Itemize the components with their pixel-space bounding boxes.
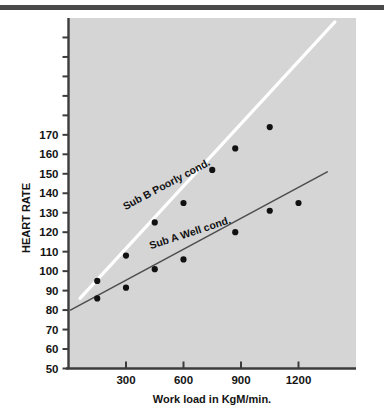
data-point-marker — [94, 295, 100, 301]
y-tick-label: 150 — [39, 168, 58, 180]
y-tick-label: 140 — [39, 187, 58, 199]
data-point-marker — [232, 229, 238, 235]
y-axis-title: HEART RATE — [20, 183, 32, 253]
y-tick-label: 170 — [39, 129, 58, 141]
x-tick-label: 600 — [174, 374, 193, 386]
data-point-marker — [123, 285, 129, 291]
y-tick-label: 80 — [46, 304, 59, 316]
y-tick-label: 110 — [40, 246, 59, 258]
y-tick-label: 50 — [46, 363, 59, 375]
data-point-marker — [152, 266, 158, 272]
heart-rate-workload-chart: 5060708090100110120130140150160170 30060… — [0, 0, 384, 414]
y-tick-label: 100 — [39, 265, 58, 277]
x-tick-label: 1200 — [286, 374, 312, 386]
data-point-marker — [267, 208, 273, 214]
x-tick-label: 300 — [116, 374, 135, 386]
data-point-marker — [295, 200, 301, 206]
data-point-marker — [152, 219, 158, 225]
chart-figure: 5060708090100110120130140150160170 30060… — [0, 0, 384, 414]
data-point-marker — [209, 167, 215, 173]
data-point-marker — [94, 278, 100, 284]
y-tick-label: 90 — [46, 285, 59, 297]
y-axis-tick-labels: 5060708090100110120130140150160170 — [39, 129, 58, 375]
plot-background — [68, 18, 356, 368]
data-point-marker — [232, 145, 238, 151]
data-point-marker — [267, 124, 273, 130]
plot-wrapper: 5060708090100110120130140150160170 30060… — [0, 0, 384, 414]
y-tick-label: 130 — [39, 207, 58, 219]
x-axis-tick-labels: 3006009001200 — [116, 374, 311, 386]
x-tick-label: 900 — [231, 374, 250, 386]
data-point-marker — [180, 200, 186, 206]
data-point-marker — [180, 256, 186, 262]
y-tick-label: 120 — [39, 226, 58, 238]
y-tick-label: 160 — [39, 148, 58, 160]
y-tick-label: 60 — [46, 343, 59, 355]
x-axis-title: Work load in KgM/min. — [153, 393, 271, 405]
y-tick-label: 70 — [46, 324, 59, 336]
data-point-marker — [123, 252, 129, 258]
